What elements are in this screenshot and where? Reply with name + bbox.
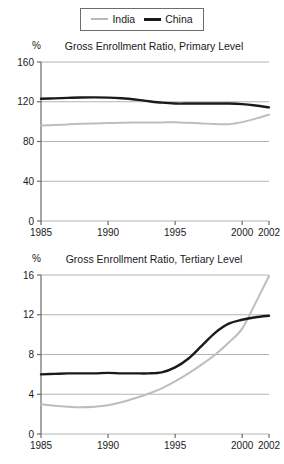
- legend-label-india: India: [112, 14, 135, 25]
- line-swatch-icon: [91, 18, 108, 20]
- legend-entry-india: India: [91, 14, 135, 25]
- x-axis-tick-label: 2002: [258, 227, 281, 238]
- legend-entry-china: China: [144, 14, 192, 25]
- y-axis-tick-label: 12: [23, 309, 35, 320]
- legend-box: India China: [80, 8, 203, 31]
- x-axis-tick-label: 1995: [164, 440, 187, 451]
- chart-plot-tertiary: 048121619851990199520002002: [0, 269, 284, 464]
- x-axis-tick-label: 1985: [30, 227, 53, 238]
- series-line-china: [41, 97, 269, 107]
- legend-label-china: China: [165, 14, 192, 25]
- series-line-china: [41, 316, 269, 375]
- y-axis-tick-label: 16: [23, 270, 35, 281]
- x-axis-tick-label: 1990: [97, 440, 120, 451]
- chart-panel-primary: % Gross Enrollment Ratio, Primary Level …: [0, 38, 284, 251]
- y-axis-tick-label: 8: [28, 349, 34, 360]
- y-axis-tick-label: 80: [23, 136, 35, 147]
- line-swatch-icon: [144, 18, 161, 21]
- y-axis-tick-label: 160: [17, 57, 34, 68]
- x-axis-tick-label: 1995: [164, 227, 187, 238]
- y-axis-tick-label: 0: [28, 216, 34, 227]
- x-axis-tick-label: 2000: [231, 227, 254, 238]
- y-axis-tick-label: 0: [28, 429, 34, 440]
- series-line-india: [41, 276, 269, 407]
- y-axis-tick-label: 40: [23, 176, 35, 187]
- chart-panel-tertiary: % Gross Enrollment Ratio, Tertiary Level…: [0, 251, 284, 464]
- x-axis-tick-label: 2000: [231, 440, 254, 451]
- chart-title-tertiary: Gross Enrollment Ratio, Tertiary Level: [0, 253, 284, 265]
- y-axis-tick-label: 4: [28, 389, 34, 400]
- x-axis-tick-label: 1990: [97, 227, 120, 238]
- chart-title-primary: Gross Enrollment Ratio, Primary Level: [0, 40, 284, 52]
- y-axis-tick-label: 120: [17, 96, 34, 107]
- x-axis-tick-label: 1985: [30, 440, 53, 451]
- chart-legend: India China: [0, 0, 284, 38]
- chart-header-primary: % Gross Enrollment Ratio, Primary Level: [0, 38, 284, 56]
- series-line-india: [41, 115, 269, 126]
- x-axis-tick-label: 2002: [258, 440, 281, 451]
- chart-plot-primary: 0408012016019851990199520002002: [0, 56, 284, 251]
- chart-header-tertiary: % Gross Enrollment Ratio, Tertiary Level: [0, 251, 284, 269]
